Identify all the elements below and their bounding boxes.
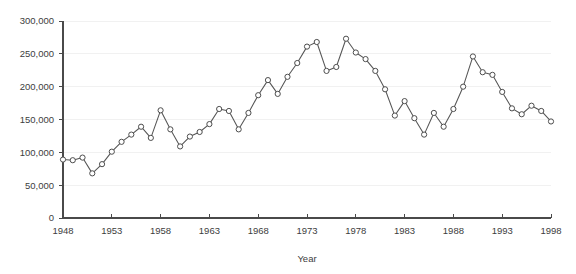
data-point-marker [90,171,95,176]
data-point-marker [226,108,231,113]
data-point-marker [265,78,270,83]
data-point-marker [60,157,65,162]
x-axis-tick-label: 1973 [296,225,317,236]
data-point-marker [217,106,222,111]
data-point-marker [275,91,280,96]
data-point-marker [343,36,348,41]
data-point-marker [70,158,75,163]
x-axis-tick-label: 1998 [540,225,561,236]
x-axis-tick-label: 1993 [492,225,513,236]
data-point-marker [353,50,358,55]
data-point-marker [236,127,241,132]
data-point-marker [451,106,456,111]
x-axis-tick-label: 1968 [248,225,269,236]
data-point-marker [129,132,134,137]
data-point-marker [99,162,104,167]
x-axis-tick-label: 1963 [199,225,220,236]
data-point-marker [422,132,427,137]
y-axis-tick-label: 50,000 [25,180,54,191]
data-point-marker [480,70,485,75]
x-axis-tick-label: 1953 [101,225,122,236]
x-axis-tick-label: 1983 [394,225,415,236]
data-point-marker [138,124,143,129]
data-point-marker [412,116,417,121]
x-axis-tick-label: 1958 [150,225,171,236]
x-axis-tick-label: 1978 [345,225,366,236]
data-point-marker [246,110,251,115]
x-axis-tick-labels: 1948195319581963196819731978198319881993… [52,225,561,236]
y-axis-tick-label: 100,000 [20,147,54,158]
y-axis-tick-label: 250,000 [20,48,54,59]
data-point-marker [490,72,495,77]
y-axis-tick-label: 150,000 [20,114,54,125]
x-axis-title: Year [297,253,316,264]
data-point-marker [158,108,163,113]
data-series-line [63,39,551,174]
data-point-marker [461,84,466,89]
data-point-marker [363,56,368,61]
data-point-marker [285,74,290,79]
data-point-marker [392,113,397,118]
chart-canvas: 050,000100,000150,000200,000250,000300,0… [0,0,576,274]
data-point-marker [431,110,436,115]
data-point-marker [168,127,173,132]
data-point-marker [441,124,446,129]
y-axis-tick-label: 300,000 [20,15,54,26]
y-axis-tick-labels: 050,000100,000150,000200,000250,000300,0… [20,15,54,223]
y-axis-tick-label: 200,000 [20,81,54,92]
data-point-marker [119,139,124,144]
data-point-marker [519,112,524,117]
x-axis-tick-label: 1988 [443,225,464,236]
data-point-marker [80,155,85,160]
data-point-marker [334,64,339,69]
y-axis-tick-marks [59,21,63,218]
data-point-marker [548,119,553,124]
data-point-marker [207,122,212,127]
data-point-marker [529,103,534,108]
data-point-marker [178,144,183,149]
x-axis-tick-marks [63,214,551,218]
data-point-marker [324,68,329,73]
line-chart-figure: 050,000100,000150,000200,000250,000300,0… [0,0,576,274]
data-point-marker [197,129,202,134]
data-point-marker [304,44,309,49]
x-axis-tick-label: 1948 [52,225,73,236]
data-point-marker [256,93,261,98]
data-point-marker [373,68,378,73]
data-point-marker [295,60,300,65]
data-point-marker [109,149,114,154]
data-point-marker [470,54,475,59]
data-point-marker [314,39,319,44]
y-axis-tick-label: 0 [49,212,54,223]
data-point-marker [402,99,407,104]
data-point-marker [382,87,387,92]
data-point-marker [539,108,544,113]
data-point-marker [148,135,153,140]
data-point-markers [60,36,553,176]
data-point-marker [509,106,514,111]
data-point-marker [500,89,505,94]
data-point-marker [187,134,192,139]
